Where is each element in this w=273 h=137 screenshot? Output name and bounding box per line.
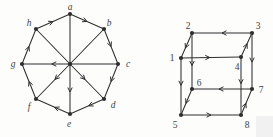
- vertex-label-1: 1: [170, 53, 175, 63]
- textbook-figure: abcdefgh12345678: [0, 0, 273, 137]
- vertex-7: [250, 87, 254, 91]
- vertex-1: [179, 56, 183, 60]
- vertex-6: [190, 87, 194, 91]
- vertex-label-d: d: [111, 100, 116, 110]
- edge-crossing-dot: [68, 62, 72, 66]
- vertex-b: [102, 27, 106, 31]
- edge-6-5: [181, 89, 192, 115]
- edge-e-f: [36, 99, 70, 114]
- vertex-c: [116, 62, 120, 66]
- vertex-label-6: 6: [197, 78, 202, 88]
- corner-smudge: [256, 116, 273, 137]
- cube-digraph: 12345678: [170, 21, 264, 130]
- vertex-label-e: e: [67, 119, 71, 129]
- vertex-d: [102, 97, 106, 101]
- vertex-3: [250, 31, 254, 35]
- edge-4-3: [241, 33, 252, 57]
- vertex-label-2: 2: [186, 21, 191, 31]
- vertex-8: [239, 113, 243, 117]
- vertex-a: [68, 12, 72, 16]
- vertex-label-7: 7: [259, 85, 264, 95]
- edge-8-7: [241, 89, 252, 115]
- vertex-g: [20, 62, 24, 66]
- vertex-label-g: g: [11, 59, 16, 69]
- edge-2-1: [181, 33, 192, 58]
- octagon-digraph: abcdefgh: [11, 2, 131, 129]
- edge-1-4: [181, 57, 241, 58]
- vertex-label-b: b: [107, 18, 112, 28]
- vertex-f: [34, 97, 38, 101]
- vertex-label-c: c: [126, 59, 131, 69]
- vertex-label-h: h: [27, 18, 32, 28]
- vertex-5: [179, 113, 183, 117]
- vertex-label-a: a: [68, 2, 73, 12]
- vertex-h: [34, 27, 38, 31]
- vertex-e: [68, 112, 72, 116]
- graphs-canvas: abcdefgh12345678: [0, 0, 273, 137]
- vertex-label-3: 3: [256, 21, 261, 31]
- vertex-2: [190, 31, 194, 35]
- vertex-label-f: f: [28, 102, 32, 112]
- vertex-label-5: 5: [173, 120, 178, 130]
- edge-d-e: [70, 99, 104, 114]
- vertex-4: [239, 55, 243, 59]
- vertex-label-8: 8: [245, 120, 250, 130]
- vertex-label-4: 4: [235, 62, 240, 72]
